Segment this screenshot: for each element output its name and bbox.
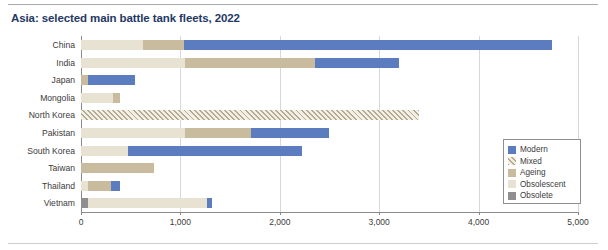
top-divider [8, 4, 598, 5]
bar-segment [81, 146, 128, 156]
bar-segment [81, 198, 88, 208]
bar-row [81, 36, 578, 54]
bar-segment [143, 40, 185, 50]
y-axis-label: China [53, 40, 75, 50]
bar-segment [315, 58, 399, 68]
bar-segment [88, 181, 111, 191]
x-tick-label: 2,000 [269, 217, 290, 227]
bar-segment [111, 181, 120, 191]
bar-segment [81, 181, 88, 191]
x-tick-label: 0 [79, 217, 84, 227]
bar-segment [81, 110, 419, 120]
bar-segment [251, 128, 329, 138]
bar-segment [207, 198, 212, 208]
bar-segment [185, 128, 251, 138]
x-tick [578, 212, 579, 215]
y-axis-label: Mongolia [40, 93, 75, 103]
x-tick-label: 4,000 [468, 217, 489, 227]
bar-row [81, 54, 578, 72]
bar-segment [81, 163, 154, 173]
legend-label: Obsolescent [520, 179, 566, 190]
legend-label: Modern [520, 144, 548, 155]
legend-swatch-obsolete [508, 192, 516, 200]
y-axis-label: Vietnam [44, 198, 75, 208]
x-tick [81, 212, 82, 215]
x-tick-label: 5,000 [567, 217, 588, 227]
y-axis-label: India [56, 58, 75, 68]
y-axis-label: Taiwan [48, 163, 75, 173]
stacked-bar [81, 146, 302, 156]
stacked-bar [81, 40, 552, 50]
stacked-bar [81, 110, 419, 120]
x-tick [379, 212, 380, 215]
y-axis-label: North Korea [29, 110, 75, 120]
legend-label: Mixed [520, 156, 542, 167]
x-tick-label: 3,000 [369, 217, 390, 227]
bar-segment [81, 58, 185, 68]
x-tick [180, 212, 181, 215]
chart-figure: Asia: selected main battle tank fleets, … [0, 0, 608, 250]
stacked-bar [81, 181, 120, 191]
y-axis-label: Japan [52, 75, 75, 85]
stacked-bar [81, 198, 212, 208]
bottom-divider [8, 243, 598, 244]
bar-segment [88, 198, 207, 208]
stacked-bar [81, 128, 329, 138]
x-tick-label: 1,000 [170, 217, 191, 227]
legend-swatch-obsolescent [508, 180, 516, 188]
x-tick [280, 212, 281, 215]
bar-segment [128, 146, 302, 156]
chart-legend: ModernMixedAgeingObsolescentObsolete [503, 139, 581, 204]
x-axis-line [81, 212, 579, 213]
stacked-bar [81, 75, 135, 85]
bar-segment [185, 58, 314, 68]
bar-row [81, 89, 578, 107]
legend-label: Obsolete [520, 190, 553, 201]
bar-segment [88, 75, 135, 85]
bar-segment [81, 40, 143, 50]
bar-row [81, 106, 578, 124]
legend-label: Ageing [520, 167, 546, 178]
bar-segment [184, 40, 552, 50]
legend-swatch-ageing [508, 169, 516, 177]
stacked-bar [81, 58, 399, 68]
bar-segment [81, 93, 113, 103]
bar-segment [81, 128, 185, 138]
stacked-bar [81, 163, 154, 173]
bar-row [81, 71, 578, 89]
bar-segment [81, 75, 88, 85]
bar-segment [113, 93, 120, 103]
x-tick [479, 212, 480, 215]
y-axis-label: Pakistan [42, 128, 75, 138]
stacked-bar [81, 93, 120, 103]
legend-swatch-modern [508, 146, 516, 154]
legend-swatch-mixed [508, 157, 516, 165]
chart-title: Asia: selected main battle tank fleets, … [11, 12, 240, 24]
y-axis-label: South Korea [27, 146, 75, 156]
y-axis-label: Thailand [42, 181, 75, 191]
